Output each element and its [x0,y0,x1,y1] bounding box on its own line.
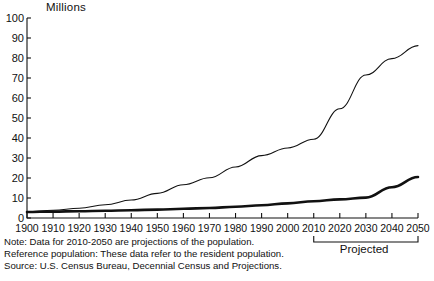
population-line-chart: Millions 0102030405060708090100 19001910… [0,0,434,281]
y-axis-ticks [27,18,31,218]
footnote-source: Source: U.S. Census Bureau, Decennial Ce… [4,260,424,272]
series-line-0 [27,46,418,212]
x-axis-ticks [27,213,418,218]
chart-footnotes: Note: Data for 2010-2050 are projections… [4,236,424,273]
footnote-reference-population: Reference population: These data refer t… [4,248,424,260]
data-series-lines [27,46,418,212]
series-line-1 [27,177,418,212]
footnote-note: Note: Data for 2010-2050 are projections… [4,236,424,248]
axis-lines [27,18,418,218]
